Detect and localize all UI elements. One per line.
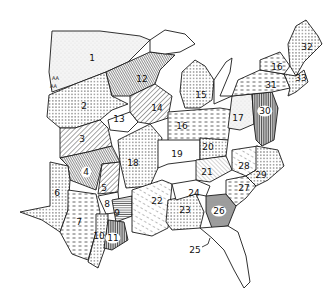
eastern-us-region-map (0, 0, 335, 302)
region-label-32: 32 (301, 43, 312, 52)
region-label-14: 14 (151, 104, 162, 113)
region-label-16: 16 (176, 122, 187, 131)
region-30[interactable] (252, 92, 278, 146)
region-15[interactable] (180, 60, 214, 108)
region-label-25: 25 (189, 246, 200, 255)
region-label-28: 28 (238, 162, 249, 171)
region-label-22: 22 (151, 197, 162, 206)
region-label-8: 8 (104, 200, 110, 209)
region-label-17: 17 (232, 114, 243, 123)
region-label-27: 27 (238, 184, 249, 193)
region-label-29: 29 (255, 171, 266, 180)
aa-marks-lower: AA (50, 84, 57, 90)
region-label-1: 1 (89, 54, 95, 63)
region-label-6: 6 (54, 189, 60, 198)
region-label-13: 13 (113, 115, 124, 124)
region-25-leader-line (202, 238, 210, 247)
region-22[interactable] (132, 180, 172, 236)
region-label-19: 19 (171, 150, 182, 159)
region-label-9: 9 (114, 209, 120, 218)
region-label-2: 2 (81, 102, 87, 111)
region-label-24: 24 (188, 189, 199, 198)
region-label-12: 12 (136, 75, 147, 84)
region-florida[interactable] (200, 226, 250, 288)
region-label-5: 5 (101, 184, 107, 193)
region-label-7: 7 (76, 218, 82, 227)
region-label-20: 20 (202, 143, 213, 152)
region-6[interactable] (20, 162, 70, 232)
region-label-10: 10 (93, 232, 104, 241)
region-label-33: 33 (295, 74, 306, 83)
region-label-16-ny: 16 (271, 63, 282, 72)
region-18[interactable] (118, 124, 162, 188)
region-label-21: 21 (201, 168, 212, 177)
aa-marks-upper: AA (52, 76, 59, 82)
region-label-18: 18 (127, 159, 138, 168)
region-label-3: 3 (79, 135, 85, 144)
region-label-15: 15 (195, 91, 206, 100)
region-label-31: 31 (265, 81, 276, 90)
region-label-4: 4 (81, 167, 91, 178)
lake-superior (150, 30, 195, 54)
lake-huron-erie (214, 58, 232, 104)
region-label-23: 23 (179, 206, 190, 215)
